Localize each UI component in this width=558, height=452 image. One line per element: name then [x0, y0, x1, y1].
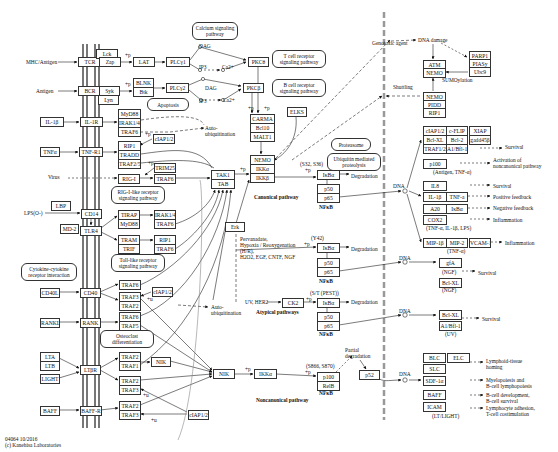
gene-box-p100b[interactable]: p100 — [423, 159, 447, 169]
gene-box-il1b_l[interactable]: IL-1β — [40, 117, 64, 127]
gene-box-rigi[interactable]: RIG-I — [118, 174, 140, 184]
gene-box-ck2[interactable]: CK2 — [282, 298, 304, 308]
gene-box-ikba_r[interactable]: IκBα — [446, 204, 468, 214]
label-p_blnk: +p — [125, 81, 131, 87]
gene-box-trim25[interactable]: TRIM25 — [154, 163, 176, 173]
gene-box-a1bfl1b[interactable]: A1/Bfl-1 — [439, 321, 462, 331]
gene-box-ikba2[interactable]: IκBα — [317, 243, 340, 253]
label-inflam1: Inflammation — [493, 217, 522, 223]
pathway-b-cell-receptor[interactable]: B cell receptorsignaling pathway — [272, 79, 326, 97]
gene-box-cox2[interactable]: COX2 — [423, 215, 447, 225]
gene-box-p65b[interactable]: p65 — [317, 267, 340, 277]
gene-box-tab[interactable]: TAB — [211, 179, 235, 189]
pathway-toll-like-receptor[interactable]: Toll-like receptorsignaling pathway — [111, 254, 165, 272]
label-myelo2: B-cell lymphopoiesis — [486, 383, 532, 389]
gene-box-ciap12a[interactable]: cIAP1/2 — [153, 134, 175, 144]
gene-box-il8[interactable]: IL8 — [423, 181, 447, 191]
gene-box-il1b_r[interactable]: IL-1β — [423, 192, 447, 202]
gene-box-myd88b[interactable]: MyD88 — [118, 219, 140, 229]
gene-box-il1r[interactable]: IL-1R — [80, 117, 103, 127]
gene-box-ltb[interactable]: LTB — [40, 361, 60, 371]
gene-box-p65c[interactable]: p65 — [317, 321, 340, 331]
pathway-calcium-signaling[interactable]: Calcium signalingpathway — [192, 22, 238, 40]
gene-box-traf1[interactable]: TRAF1 — [119, 361, 141, 371]
gene-box-tlr4[interactable]: TLR4 — [80, 226, 102, 236]
label-antigen_tnf: (Antigen, TNF-α) — [433, 169, 471, 175]
gene-box-nik2[interactable]: NIK — [213, 369, 235, 379]
gene-box-ikba3[interactable]: IκBα — [317, 298, 340, 308]
gene-box-traf6d[interactable]: TRAF6 — [154, 244, 176, 254]
gene-box-traf6e[interactable]: TRAF6 — [119, 280, 141, 290]
gene-box-ikkb[interactable]: IKKβ — [250, 173, 275, 183]
pathway-proteasome[interactable]: Proteasome — [331, 138, 371, 151]
gene-box-a1bfl1a[interactable]: A1/Bfl-1 — [446, 144, 468, 154]
gene-box-plcg1[interactable]: PLCγ1 — [166, 57, 190, 67]
gene-box-cd40l[interactable]: CD40L — [40, 288, 60, 298]
gene-box-cd14[interactable]: CD14 — [81, 209, 102, 219]
gene-box-btk[interactable]: Btk — [133, 87, 154, 97]
gene-box-baff_r[interactable]: BAFF — [423, 390, 446, 400]
gene-box-erk[interactable]: Erk — [225, 222, 245, 232]
gene-box-cd40[interactable]: CD40 — [80, 288, 101, 298]
gene-box-lyn[interactable]: Lyn — [98, 95, 119, 105]
gene-box-gfa[interactable]: gfA — [439, 258, 462, 268]
gene-box-mip2[interactable]: MIP-2 — [446, 238, 468, 248]
gene-box-nik1[interactable]: NIK — [151, 357, 171, 367]
gene-box-traf3c[interactable]: TRAF3 — [119, 410, 141, 420]
gene-box-elc[interactable]: ELC — [447, 353, 470, 363]
pathway-cytokine-receptor[interactable]: Cytokine-cytokinereceptor interaction — [21, 263, 77, 281]
gene-box-traf25[interactable]: TRAF2/5 — [118, 159, 141, 169]
gene-box-zap[interactable]: Zap — [99, 57, 121, 67]
gene-box-ltbr[interactable]: LTβR — [80, 365, 101, 375]
gene-box-icam[interactable]: ICAM — [423, 402, 446, 412]
gene-box-a20[interactable]: A20 — [423, 204, 447, 214]
gene-box-tnfr1[interactable]: TNF-R1 — [79, 147, 103, 157]
gene-box-tnfa_r[interactable]: TNF-a — [446, 192, 468, 202]
label-ca2: Ca2+ — [223, 97, 235, 103]
gene-box-vcam1[interactable]: VCAM-1 — [469, 238, 491, 248]
gene-box-pkcb[interactable]: PKCβ — [243, 83, 264, 93]
gene-box-light[interactable]: LIGHT — [40, 374, 60, 384]
gene-box-traf6b[interactable]: TRAF6 — [154, 174, 176, 184]
gene-box-rankl[interactable]: RANKL — [40, 318, 60, 328]
pathway-t-cell-receptor[interactable]: T cell receptorsignaling pathway — [272, 50, 326, 68]
gene-box-slc[interactable]: SLC — [423, 364, 446, 374]
gene-box-p52[interactable]: p52 — [359, 370, 380, 380]
gene-box-traf6a[interactable]: TRAF6 — [118, 127, 141, 137]
gene-box-traf2a[interactable]: TRAF2 — [119, 301, 141, 311]
gene-box-ciap12c[interactable]: cIAP1/2 — [188, 410, 209, 420]
pathway-osteoclast-differentiation[interactable]: Osteoclastdifferentiation — [100, 330, 154, 348]
gene-box-baff_l[interactable]: BAFF — [40, 406, 60, 416]
gene-box-elks[interactable]: ELKS — [287, 107, 307, 117]
gene-box-gadd45b[interactable]: gadd45β — [469, 135, 491, 145]
label-negfb: Negative feedback — [493, 205, 533, 211]
gene-box-traf6c[interactable]: TRAF6 — [154, 219, 176, 229]
pathway-ubiquitin-proteolysis[interactable]: Ubiquitin mediatedproteolysis — [327, 153, 381, 171]
gene-box-ciap12b[interactable]: cIAP1/2 — [152, 287, 173, 297]
gene-box-blc1[interactable]: BLC — [423, 353, 446, 363]
gene-box-sdf1a[interactable]: SDF-1α — [423, 376, 446, 386]
gene-box-lbp[interactable]: LBP — [51, 201, 71, 211]
gene-box-rip1c[interactable]: RIP1 — [423, 108, 446, 118]
gene-box-ikba1[interactable]: IκBα — [317, 170, 340, 180]
gene-box-rank[interactable]: RANK — [80, 318, 101, 328]
gene-box-ikka2[interactable]: IKKα — [254, 369, 277, 379]
label-p_tak: +p — [240, 166, 246, 172]
pathway-rig-i-like-receptor[interactable]: RIG-I-like receptorsignaling pathway — [111, 186, 165, 204]
gene-box-malt1[interactable]: MALT1 — [250, 132, 275, 142]
gene-box-ubc9[interactable]: Ubc9 — [469, 67, 491, 77]
gene-box-traf12[interactable]: TRAF1/2 — [423, 144, 447, 154]
pathway-apoptosis[interactable]: Apoptosis — [147, 98, 189, 111]
gene-box-bclxl3[interactable]: Bcl-XL — [439, 310, 462, 320]
gene-box-tnfa_l[interactable]: TNFα — [40, 147, 60, 157]
gene-box-p65a[interactable]: p65 — [317, 193, 340, 203]
gene-box-md2[interactable]: MD-2 — [60, 224, 79, 234]
gene-box-lat[interactable]: LAT — [133, 57, 155, 67]
gene-box-traf3b[interactable]: TRAF3 — [119, 385, 141, 395]
gene-box-plcg2[interactable]: PLCγ2 — [166, 83, 189, 93]
gene-box-traf5[interactable]: TRAF5 — [119, 321, 141, 331]
gene-box-pkct[interactable]: PKCθ — [248, 57, 269, 67]
gene-box-mip1b[interactable]: MIP-1β — [423, 238, 447, 248]
gene-box-baffr[interactable]: BAFF-R — [80, 406, 102, 416]
gene-box-trif[interactable]: TRIF — [118, 244, 140, 254]
